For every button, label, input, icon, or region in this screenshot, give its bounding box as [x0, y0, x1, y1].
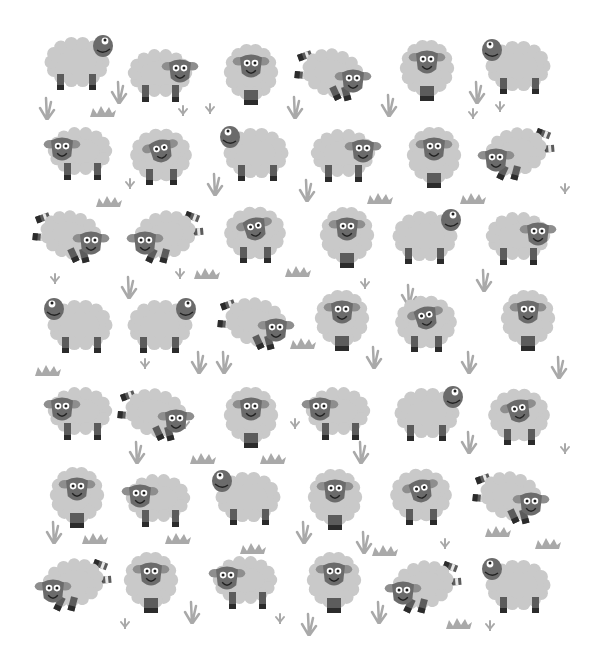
grass-tuft-icon — [475, 268, 493, 296]
sheep-side-right-icon — [128, 45, 202, 109]
grass-sprig-icon — [560, 440, 570, 458]
grass-sprig-icon — [495, 98, 505, 116]
sheep-side-left-icon — [298, 383, 372, 447]
sheep-jump-left-icon — [125, 205, 203, 273]
sheep-look-up-left-icon — [478, 555, 550, 619]
sheep-look-up-left-icon — [478, 36, 550, 100]
sheep-side-left-icon — [205, 552, 279, 616]
grass-zigzag-icon — [35, 362, 61, 380]
sheep-look-up-right-icon — [395, 383, 467, 447]
sheep-look-up-left-icon — [216, 123, 288, 187]
sheep-side-left-icon — [118, 470, 192, 534]
sheep-front-icon — [318, 205, 376, 275]
sheep-front-tilt-icon — [128, 125, 194, 193]
sheep-jump-right-icon — [118, 383, 196, 451]
sheep-jump-right-icon — [218, 292, 296, 360]
sheep-jump-left-icon — [476, 122, 554, 190]
grass-sprig-icon — [205, 100, 215, 118]
sheep-front-icon — [122, 550, 180, 620]
sheep-side-left-icon — [40, 383, 114, 447]
sheep-jump-right-icon — [473, 466, 551, 534]
grass-sprig-icon — [440, 535, 450, 553]
grass-zigzag-icon — [285, 263, 311, 281]
sheep-side-right-icon — [486, 208, 560, 272]
sheep-look-up-left-icon — [40, 295, 112, 359]
sheep-jump-right-icon — [295, 43, 373, 111]
grass-tuft-icon — [183, 600, 201, 628]
sheep-front-tilt-icon — [388, 465, 454, 533]
sheep-front-icon — [48, 465, 106, 535]
sheep-look-up-right-icon — [45, 32, 117, 96]
sheep-front-icon — [306, 467, 364, 537]
sheep-side-left-icon — [40, 123, 114, 187]
sheep-front-tilt-icon — [222, 203, 288, 271]
sheep-front-icon — [222, 42, 280, 112]
sheep-front-tilt-icon — [393, 292, 459, 360]
sheep-front-icon — [222, 385, 280, 455]
sheep-pattern-illustration — [0, 0, 589, 652]
grass-tuft-icon — [460, 350, 478, 378]
sheep-jump-left-icon — [383, 555, 461, 623]
sheep-jump-right-icon — [33, 205, 111, 273]
grass-tuft-icon — [380, 93, 398, 121]
sheep-look-up-right-icon — [393, 206, 465, 270]
sheep-look-up-right-icon — [128, 295, 200, 359]
sheep-front-icon — [313, 288, 371, 358]
sheep-front-icon — [305, 550, 363, 620]
sheep-side-right-icon — [311, 125, 385, 189]
sheep-look-up-left-icon — [208, 467, 280, 531]
grass-zigzag-icon — [535, 535, 561, 553]
sheep-jump-left-icon — [33, 553, 111, 621]
sheep-front-icon — [405, 125, 463, 195]
grass-sprig-icon — [468, 105, 478, 123]
grass-tuft-icon — [550, 355, 568, 383]
grass-sprig-icon — [485, 617, 495, 635]
sheep-front-icon — [499, 288, 557, 358]
grass-tuft-icon — [38, 96, 56, 124]
sheep-front-tilt-icon — [486, 385, 552, 453]
sheep-front-icon — [398, 38, 456, 108]
grass-sprig-icon — [560, 180, 570, 198]
grass-zigzag-icon — [190, 450, 216, 468]
